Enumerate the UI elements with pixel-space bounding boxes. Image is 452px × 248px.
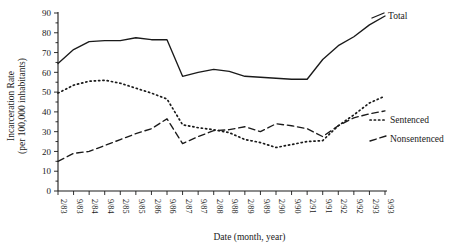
series-line-nonsentenced	[58, 111, 385, 161]
chart-canvas: 0102030405060708090 2/839/832/849/842/85…	[0, 0, 452, 248]
legend-swatch-nonsentenced	[370, 136, 386, 141]
series-line-sentenced	[58, 80, 385, 147]
x-axis-tick-label: 9/90	[293, 199, 302, 214]
y-axis-title-line1: Incarceration Rate	[6, 71, 16, 141]
y-axis-tick-label: 60	[42, 68, 52, 78]
x-axis-tick-label: 2/83	[59, 199, 68, 214]
data-series-group	[58, 16, 385, 161]
legend-label-nonsentenced: Nonsentenced	[390, 134, 444, 144]
x-axis-tick-label: 2/86	[153, 199, 162, 214]
legend: TotalSentencedNonsentenced	[370, 11, 444, 144]
x-axis-tick-label: 9/92	[355, 199, 364, 214]
y-axis-tick-label: 30	[42, 127, 52, 137]
y-axis-title-line2: (per 100,000 inhabitants)	[17, 58, 28, 154]
x-axis-tick-label: 9/91	[324, 199, 333, 214]
series-line-total	[58, 16, 385, 79]
y-axis-tick-label: 10	[42, 166, 52, 176]
x-axis-tick-label: 2/87	[184, 199, 193, 214]
x-axis-tick-label: 2/88	[215, 199, 224, 214]
y-axis: 0102030405060708090	[42, 8, 58, 196]
y-axis-tick-label: 0	[47, 186, 52, 196]
y-axis-tick-label: 50	[42, 87, 52, 97]
x-axis-tick-label: 2/93	[371, 199, 380, 214]
x-axis-tick-label: 9/93	[386, 199, 395, 214]
x-axis-tick-label: 9/84	[106, 199, 115, 214]
x-axis-tick-label: 2/92	[339, 199, 348, 214]
y-axis-tick-label: 40	[42, 107, 52, 117]
legend-label-total: Total	[388, 11, 408, 21]
incarceration-rate-chart: 0102030405060708090 2/839/832/849/842/85…	[0, 0, 452, 248]
x-axis-tick-label: 9/83	[75, 199, 84, 214]
x-axis-tick-label: 9/89	[262, 199, 271, 214]
x-axis-tick-label: 2/85	[121, 199, 130, 214]
y-axis-tick-label: 70	[42, 48, 52, 58]
x-axis-tick-label: 2/91	[308, 199, 317, 214]
x-axis-tick-label: 9/88	[230, 199, 239, 214]
y-axis-tick-label: 90	[42, 8, 52, 18]
y-axis-tick-label: 20	[42, 147, 52, 157]
x-axis-tick-label: 2/89	[246, 199, 255, 214]
legend-label-sentenced: Sentenced	[390, 115, 429, 125]
x-axis-tick-label: 2/84	[90, 199, 99, 214]
x-axis-tick-label: 9/86	[168, 199, 177, 214]
x-axis-title: Date (month, year)	[213, 232, 285, 243]
y-axis-tick-label: 80	[42, 28, 52, 38]
x-axis: 2/839/832/849/842/859/852/869/862/879/87…	[58, 191, 395, 214]
x-axis-tick-label: 9/85	[137, 199, 146, 214]
x-axis-tick-label: 9/87	[199, 199, 208, 214]
x-axis-tick-label: 2/90	[277, 199, 286, 214]
